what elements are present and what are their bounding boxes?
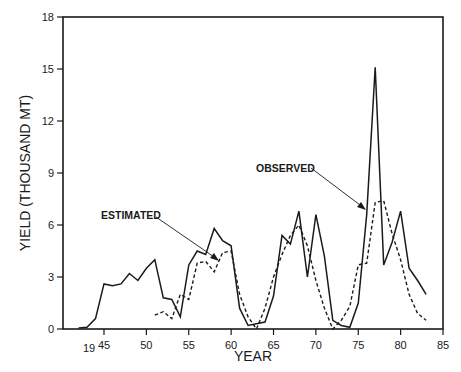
y-axis: 0369121518 bbox=[42, 11, 63, 335]
y-tick-label: 12 bbox=[42, 115, 54, 127]
y-tick-label: 3 bbox=[48, 271, 54, 283]
annotation-estimated-arrowhead bbox=[210, 253, 219, 261]
annotation-layer: ESTIMATED OBSERVED bbox=[101, 162, 366, 261]
x-tick-label: 70 bbox=[310, 339, 322, 351]
yield-chart: 0369121518 455055606570758085 19 YEAR YI… bbox=[0, 0, 461, 372]
x-tick-label: 80 bbox=[395, 339, 407, 351]
plot-frame bbox=[63, 17, 443, 329]
y-tick-label: 6 bbox=[48, 219, 54, 231]
x-tick-label: 50 bbox=[140, 339, 152, 351]
annotation-estimated-arrow bbox=[156, 217, 217, 259]
annotation-estimated: ESTIMATED bbox=[101, 209, 161, 221]
y-tick-label: 9 bbox=[48, 167, 54, 179]
annotation-observed-arrow bbox=[311, 168, 364, 208]
y-tick-label: 18 bbox=[42, 11, 54, 23]
series-estimated-line bbox=[155, 201, 426, 329]
y-axis-title: YIELD (THOUSAND MT) bbox=[17, 95, 33, 251]
x-axis-title: YEAR bbox=[234, 348, 272, 364]
y-tick-label: 15 bbox=[42, 63, 54, 75]
y-tick-label: 0 bbox=[48, 323, 54, 335]
series-layer bbox=[79, 67, 427, 329]
x-tick-label: 55 bbox=[183, 339, 195, 351]
x-century-label: 19 bbox=[83, 342, 95, 354]
x-tick-label: 45 bbox=[98, 339, 110, 351]
x-axis: 455055606570758085 bbox=[98, 329, 449, 351]
x-tick-label: 75 bbox=[352, 339, 364, 351]
annotation-observed: OBSERVED bbox=[256, 162, 315, 174]
x-tick-label: 85 bbox=[437, 339, 449, 351]
series-observed-line bbox=[79, 67, 427, 328]
